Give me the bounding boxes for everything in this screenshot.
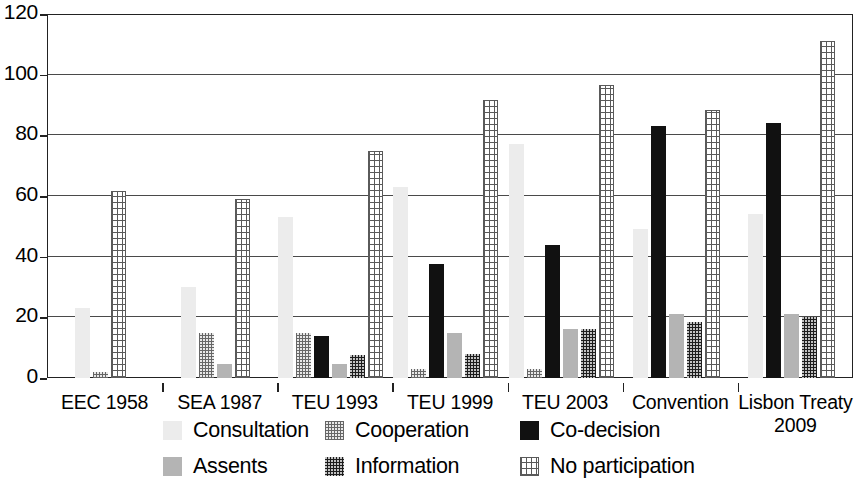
bar-lisbon-treaty-2009-information: [802, 317, 817, 378]
legend-swatch-assents-icon: [163, 457, 182, 476]
bar-teu-2003-assents: [563, 329, 578, 378]
bar-sea-1987-cooperation: [199, 333, 214, 379]
legend-item-assents[interactable]: Assents: [163, 454, 267, 479]
bar-sea-1987-consultation: [181, 287, 196, 378]
x-axis-label-teu-2003: TEU 2003: [508, 391, 623, 414]
bar-teu-2003-co-decision: [545, 245, 560, 378]
bar-convention-consultation: [633, 229, 648, 378]
legend-swatch-no-participation-icon: [520, 457, 539, 476]
legend-item-information[interactable]: Information: [325, 454, 459, 479]
bar-teu-1993-no-participation: [368, 151, 383, 379]
bar-convention-no-participation: [705, 110, 720, 378]
bar-eec-1958-cooperation: [93, 372, 108, 378]
bar-teu-1999-information: [465, 354, 480, 378]
bar-lisbon-treaty-2009-consultation: [748, 214, 763, 378]
bar-teu-2003-cooperation: [527, 369, 542, 378]
bar-convention-information: [687, 322, 702, 378]
bar-teu-1999-co-decision: [429, 264, 444, 378]
bar-group-teu-2003: [508, 14, 623, 378]
legend-label: Information: [355, 454, 459, 479]
legend-label: No participation: [550, 454, 695, 479]
bar-lisbon-treaty-2009-co-decision: [766, 123, 781, 378]
legend-item-cooperation[interactable]: Cooperation: [325, 418, 469, 443]
bar-group-convention: [623, 14, 738, 378]
bar-convention-co-decision: [651, 126, 666, 378]
chart-legend: ConsultationCooperationCo-decisionAssent…: [0, 418, 863, 485]
bar-teu-1993-assents: [332, 364, 347, 378]
y-tick-label-80: 80: [0, 121, 38, 145]
y-tick-mark-0: [40, 378, 47, 380]
bar-teu-1999-no-participation: [483, 100, 498, 378]
bar-group-lisbon-treaty-2009: [738, 14, 853, 378]
legend-label: Cooperation: [355, 418, 469, 443]
bar-group-sea-1987: [162, 14, 277, 378]
bar-chart: 020406080100120 EEC 1958SEA 1987TEU 1993…: [0, 0, 863, 485]
bar-teu-1993-consultation: [278, 217, 293, 378]
y-tick-mark-60: [40, 196, 47, 198]
x-axis-label-teu-1999: TEU 1999: [392, 391, 507, 414]
legend-swatch-cooperation-icon: [325, 421, 344, 440]
bar-teu-2003-information: [581, 329, 596, 378]
x-axis-label-teu-1993: TEU 1993: [277, 391, 392, 414]
x-axis-label-eec-1958: EEC 1958: [47, 391, 162, 414]
bar-teu-1993-cooperation: [296, 333, 311, 379]
y-tick-mark-40: [40, 257, 47, 259]
legend-label: Assents: [193, 454, 267, 479]
legend-item-co-decision[interactable]: Co-decision: [520, 418, 660, 443]
x-axis: EEC 1958SEA 1987TEU 1993TEU 1999TEU 2003…: [47, 383, 853, 423]
y-tick-label-100: 100: [0, 61, 38, 85]
bar-teu-1993-co-decision: [314, 336, 329, 378]
y-tick-mark-20: [40, 317, 47, 319]
legend-item-no-participation[interactable]: No participation: [520, 454, 695, 479]
bar-teu-2003-consultation: [509, 144, 524, 378]
x-axis-label-convention: Convention: [623, 391, 738, 414]
legend-label: Consultation: [193, 418, 309, 443]
bar-eec-1958-consultation: [75, 308, 90, 378]
y-tick-mark-100: [40, 75, 47, 77]
legend-item-consultation[interactable]: Consultation: [163, 418, 309, 443]
bar-eec-1958-no-participation: [111, 191, 126, 378]
bar-teu-2003-no-participation: [599, 85, 614, 378]
y-tick-label-120: 120: [0, 0, 38, 24]
y-tick-mark-120: [40, 14, 47, 16]
legend-swatch-co-decision-icon: [520, 421, 539, 440]
y-tick-label-40: 40: [0, 243, 38, 267]
bar-sea-1987-no-participation: [235, 199, 250, 378]
bar-group-teu-1999: [392, 14, 507, 378]
legend-swatch-consultation-icon: [163, 421, 182, 440]
bar-lisbon-treaty-2009-no-participation: [820, 41, 835, 378]
bar-teu-1999-assents: [447, 333, 462, 379]
bar-teu-1999-consultation: [393, 187, 408, 378]
bar-lisbon-treaty-2009-assents: [784, 314, 799, 378]
y-tick-mark-80: [40, 135, 47, 137]
bars-layer: [47, 14, 853, 378]
y-tick-label-20: 20: [0, 303, 38, 327]
x-axis-label-sea-1987: SEA 1987: [162, 391, 277, 414]
bar-group-teu-1993: [277, 14, 392, 378]
bar-group-eec-1958: [47, 14, 162, 378]
legend-swatch-information-icon: [325, 457, 344, 476]
legend-label: Co-decision: [550, 418, 660, 443]
y-tick-label-60: 60: [0, 182, 38, 206]
bar-teu-1999-cooperation: [411, 369, 426, 378]
bar-teu-1993-information: [350, 355, 365, 378]
bar-convention-assents: [669, 314, 684, 378]
bar-sea-1987-assents: [217, 364, 232, 378]
y-tick-label-0: 0: [0, 364, 38, 388]
